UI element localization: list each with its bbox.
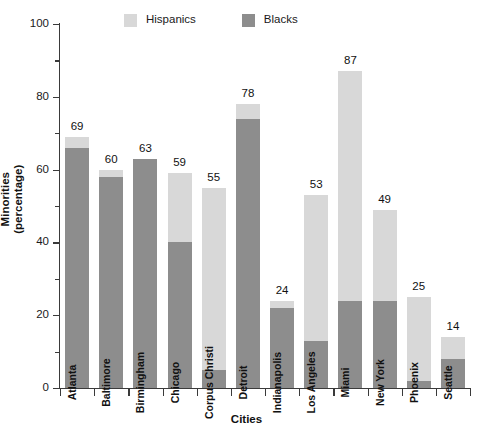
bar-segment-hispanics[interactable] — [338, 71, 362, 300]
y-axis-tick — [53, 242, 60, 243]
bar-group[interactable]: Indianapolis — [270, 301, 294, 388]
x-axis-tick — [128, 389, 129, 396]
bar-segment-hispanics[interactable] — [65, 137, 89, 148]
x-axis-tick — [368, 389, 369, 396]
bar-segment-hispanics[interactable] — [236, 104, 260, 119]
bar-group[interactable]: Corpus Christi — [202, 188, 226, 388]
bar-category-label: Phoenix — [408, 362, 419, 403]
bar-segment-blacks[interactable] — [236, 119, 260, 388]
y-axis-tick-label: 40 — [36, 237, 49, 249]
bar-value-label: 25 — [412, 281, 425, 293]
x-axis-tick — [163, 389, 164, 396]
y-axis-minor-tick — [55, 206, 60, 207]
bar-group[interactable]: Atlanta — [65, 137, 89, 388]
bar-chart: Hispanics Blacks Minorities (percentage)… — [0, 0, 493, 434]
bar-value-label: 55 — [207, 172, 220, 184]
bar-category-label: Miami — [340, 367, 351, 397]
x-axis-tick — [60, 389, 61, 396]
x-axis-tick — [94, 389, 95, 396]
bar-group[interactable]: New York — [373, 210, 397, 388]
y-axis-tick-label: 0 — [43, 382, 49, 394]
y-axis-minor-tick — [55, 352, 60, 353]
bar-category-label: Chicago — [169, 361, 180, 402]
bar-segment-hispanics[interactable] — [304, 195, 328, 341]
bar-value-label: 69 — [71, 121, 84, 133]
bar-category-label: Indianapolis — [272, 351, 283, 412]
x-axis-tick — [231, 389, 232, 396]
bar-category-label: Baltimore — [101, 358, 112, 406]
bar-group[interactable]: Detroit — [236, 104, 260, 388]
x-axis-tick — [299, 389, 300, 396]
bar-segment-hispanics[interactable] — [373, 210, 397, 301]
bar-category-label: New York — [374, 359, 385, 406]
bar-category-label: Atlanta — [67, 364, 78, 400]
y-axis-tick-label: 20 — [36, 309, 49, 321]
bar-group[interactable]: Birmingham — [133, 159, 157, 388]
x-axis-tick — [402, 389, 403, 396]
y-axis-minor-tick — [55, 133, 60, 134]
x-axis-title: Cities — [0, 413, 493, 425]
bar-category-label: Detroit — [237, 365, 248, 399]
bar-category-label: Birmingham — [135, 351, 146, 412]
bar-value-label: 78 — [242, 88, 255, 100]
y-axis-tick-label: 80 — [36, 91, 49, 103]
bar-segment-hispanics[interactable] — [270, 301, 294, 308]
y-axis-tick — [53, 388, 60, 389]
bar-group[interactable]: Los Angeles — [304, 195, 328, 388]
bar-segment-blacks[interactable] — [65, 148, 89, 388]
y-axis-minor-tick — [55, 60, 60, 61]
bar-value-label: 53 — [310, 179, 323, 191]
bar-value-label: 63 — [139, 143, 152, 155]
bar-segment-hispanics[interactable] — [99, 170, 123, 177]
bar-segment-blacks[interactable] — [99, 177, 123, 388]
plot-area: 020406080100Atlanta69Baltimore60Birmingh… — [60, 24, 470, 388]
bar-value-label: 87 — [344, 55, 357, 67]
x-axis-tick — [436, 389, 437, 396]
bar-group[interactable]: Miami — [338, 71, 362, 388]
y-axis-tick — [53, 97, 60, 98]
y-axis-tick-label: 100 — [30, 18, 49, 30]
bar-category-label: Los Angeles — [306, 351, 317, 413]
y-axis-title-line2: (percentage) — [12, 165, 24, 234]
bar-value-label: 60 — [105, 154, 118, 166]
y-axis-title-line1: Minorities — [0, 172, 11, 226]
x-axis-tick — [265, 389, 266, 396]
bar-value-label: 49 — [378, 194, 391, 206]
bar-segment-hispanics[interactable] — [168, 173, 192, 242]
x-axis-tick — [197, 389, 198, 396]
bar-category-label: Corpus Christi — [203, 346, 214, 419]
y-axis-tick — [53, 315, 60, 316]
y-axis-minor-tick — [55, 279, 60, 280]
y-axis-tick-label: 60 — [36, 164, 49, 176]
bar-group[interactable]: Baltimore — [99, 170, 123, 388]
x-axis-tick — [470, 389, 471, 396]
bar-segment-hispanics[interactable] — [202, 188, 226, 370]
y-axis-tick — [53, 24, 60, 25]
bar-value-label: 24 — [276, 285, 289, 297]
bar-group[interactable]: Chicago — [168, 173, 192, 388]
bar-segment-hispanics[interactable] — [441, 337, 465, 359]
bar-value-label: 59 — [173, 157, 186, 169]
bar-group[interactable]: Phoenix — [407, 297, 431, 388]
bar-category-label: Seattle — [442, 365, 453, 399]
bar-group[interactable]: Seattle — [441, 337, 465, 388]
y-axis-title: Minorities (percentage) — [0, 139, 25, 259]
bar-value-label: 14 — [447, 321, 460, 333]
x-axis-tick — [333, 389, 334, 396]
y-axis-tick — [53, 170, 60, 171]
